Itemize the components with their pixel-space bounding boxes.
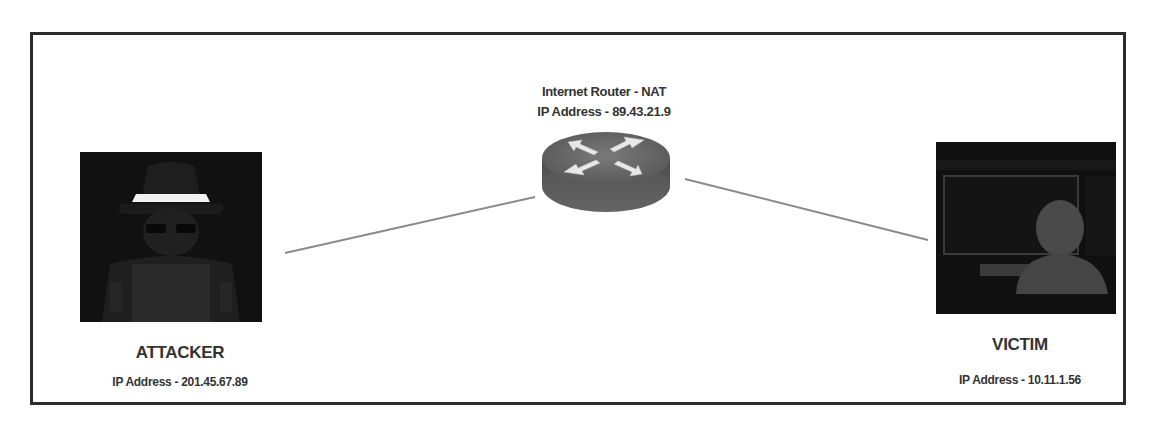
router-icon (538, 128, 674, 216)
attacker-name: ATTACKER (80, 343, 280, 363)
attacker-ip: IP Address - 201.45.67.89 (80, 375, 280, 389)
link-attacker-router (285, 197, 535, 253)
victim-node (936, 142, 1116, 314)
hacker-icon (80, 152, 262, 322)
router-title: Internet Router - NAT (470, 84, 738, 99)
victim-ip: IP Address - 10.11.1.56 (920, 373, 1120, 387)
router-node (538, 128, 674, 216)
user-at-monitor-icon (936, 142, 1116, 314)
router-ip: IP Address - 89.43.21.9 (470, 104, 738, 119)
victim-name: VICTIM (920, 335, 1120, 355)
link-router-victim (685, 179, 928, 240)
attacker-node (80, 152, 262, 322)
